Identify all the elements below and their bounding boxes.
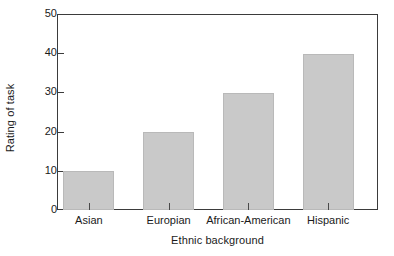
y-axis-tick-label: 50 — [17, 7, 57, 20]
bar — [303, 54, 354, 210]
x-axis-tick-mark — [89, 203, 90, 210]
bar — [223, 93, 274, 210]
y-axis-tick-label: 20 — [17, 125, 57, 138]
y-axis-tick: 0 — [0, 210, 70, 211]
x-axis-tick-mark — [248, 203, 249, 210]
x-axis-title: Ethnic background — [57, 234, 378, 246]
bars-layer — [58, 15, 377, 210]
x-axis-tick-label: Hispanic — [268, 213, 388, 227]
y-axis-tick-label: 30 — [17, 85, 57, 98]
x-axis-tick-mark — [169, 203, 170, 210]
x-axis-tick-mark — [328, 203, 329, 210]
y-axis-tick-label: 10 — [17, 164, 57, 177]
bar-chart-figure: Rating of task 01020304050 AsianEuropian… — [0, 0, 394, 256]
y-axis-tick-label: 40 — [17, 46, 57, 59]
bar — [143, 132, 194, 210]
y-axis-title: Rating of task — [4, 66, 20, 170]
